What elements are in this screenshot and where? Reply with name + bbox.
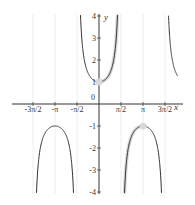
- y-tick-label: 2: [92, 56, 96, 65]
- curve-branch: [99, 16, 117, 82]
- y-tick-label: 1: [92, 78, 96, 87]
- y-axis-label: y: [103, 12, 108, 22]
- x-axis-label: x: [173, 102, 178, 112]
- secant-chart: -3π/2-π-π/2π/2π3π/24321-1-2-3-4 x y 0: [0, 0, 195, 205]
- y-tick-label: 3: [92, 34, 96, 43]
- y-tick-label: -4: [89, 188, 96, 197]
- y-tick-label: -2: [89, 144, 96, 153]
- highlighted-point: [140, 123, 147, 130]
- x-tick-label: π: [141, 105, 145, 114]
- highlighted-point: [96, 79, 103, 86]
- y-tick-label: -1: [89, 122, 96, 131]
- curve-branch: [125, 126, 143, 192]
- origin-label: 0: [91, 93, 95, 102]
- curve-branch: [169, 16, 178, 76]
- x-tick-label: π/2: [116, 105, 126, 114]
- x-tick-label: -3π/2: [25, 105, 42, 114]
- y-tick-label: -3: [89, 166, 96, 175]
- x-tick-label: -π: [52, 105, 59, 114]
- y-tick-label: 4: [92, 12, 96, 21]
- x-tick-label: 3π/2: [158, 105, 172, 114]
- x-tick-label: -π/2: [71, 105, 84, 114]
